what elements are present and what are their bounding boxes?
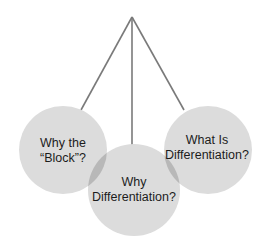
pendant-diagram: Why the “Block”? Why Differentiation? Wh… [0,0,262,242]
diagram-canvas [0,0,262,242]
connector-line-left [81,17,132,110]
node-label-line: Differentiation? [92,190,176,205]
node-label-what-is-differentiation: What Is Differentiation? [165,133,249,163]
node-label-line: What Is [165,133,249,148]
node-label-line: Why the [40,136,86,151]
node-label-line: “Block”? [40,151,86,166]
node-label-line: Why [92,175,176,190]
node-label-why-the-block: Why the “Block”? [40,136,86,166]
connector-line-right [132,17,184,110]
node-label-line: Differentiation? [165,148,249,163]
node-label-why-differentiation: Why Differentiation? [92,175,176,205]
